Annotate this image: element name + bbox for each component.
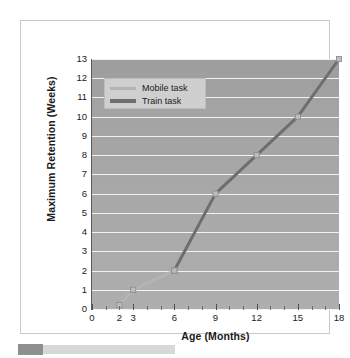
legend-label-train-task: Train task <box>142 96 181 106</box>
x-axis-tick-label: 12 <box>242 312 272 323</box>
chart-legend: Mobile task Train task <box>104 78 206 109</box>
x-axis-tick-label: 9 <box>201 312 231 323</box>
legend-item-mobile-task: Mobile task <box>110 82 200 94</box>
x-axis-major-tick <box>133 304 134 310</box>
x-axis-minor-tick <box>161 306 162 310</box>
y-axis-tick-labels: 012345678910111213 <box>61 21 87 358</box>
x-axis-major-tick <box>216 304 217 310</box>
x-axis-major-tick <box>298 304 299 310</box>
y-axis-tick-label: 6 <box>63 189 87 199</box>
data-point-marker <box>213 191 218 196</box>
x-axis-tick-label: 0 <box>77 312 107 323</box>
y-axis-title: Maximum Retention (Weeks) <box>45 39 57 259</box>
x-axis-major-tick <box>174 304 175 310</box>
y-axis-tick-label: 11 <box>63 92 87 102</box>
x-axis-tick-label: 6 <box>159 312 189 323</box>
x-axis-major-tick <box>92 304 93 310</box>
x-axis-minor-tick <box>119 306 120 310</box>
x-axis-minor-tick <box>312 306 313 310</box>
y-axis-tick-label: 3 <box>63 246 87 256</box>
figure-frame: Maximum Retention (Weeks) 01234567891011… <box>20 20 330 334</box>
x-axis-minor-tick <box>325 306 326 310</box>
x-axis-minor-tick <box>188 306 189 310</box>
y-axis-tick-label: 12 <box>63 73 87 83</box>
x-axis-minor-tick <box>202 306 203 310</box>
data-point-marker <box>254 153 259 158</box>
x-axis-minor-tick <box>106 306 107 310</box>
data-point-marker <box>172 268 177 273</box>
data-point-marker <box>295 114 300 119</box>
y-axis-tick-label: 2 <box>63 266 87 276</box>
y-axis-tick-label: 5 <box>63 208 87 218</box>
x-axis-major-tick <box>257 304 258 310</box>
data-point-marker <box>336 56 341 61</box>
legend-swatch-train-task <box>110 99 136 103</box>
y-axis-tick-label: 13 <box>63 54 87 64</box>
x-axis-tick-label: 15 <box>283 312 313 323</box>
data-point-marker <box>131 287 136 292</box>
x-axis-major-tick <box>339 304 340 310</box>
x-axis-minor-tick <box>229 306 230 310</box>
y-axis-tick-label: 9 <box>63 131 87 141</box>
y-axis-tick-label: 10 <box>63 112 87 122</box>
x-axis-minor-tick <box>243 306 244 310</box>
caption-strip <box>18 344 175 355</box>
y-axis-tick-label: 1 <box>63 285 87 295</box>
y-axis-tick-label: 8 <box>63 150 87 160</box>
caption-swatch <box>18 344 43 355</box>
x-axis-minor-tick <box>147 306 148 310</box>
x-axis-minor-tick <box>270 306 271 310</box>
caption-bar <box>43 345 175 354</box>
x-axis-tick-label: 3 <box>118 312 148 323</box>
legend-swatch-mobile-task <box>110 87 136 90</box>
y-axis-tick-label: 7 <box>63 169 87 179</box>
series-line-mobile-task <box>119 271 174 306</box>
legend-label-mobile-task: Mobile task <box>142 83 188 93</box>
y-axis-tick-label: 4 <box>63 227 87 237</box>
legend-item-train-task: Train task <box>110 95 200 107</box>
x-axis-title: Age (Months) <box>92 330 339 342</box>
x-axis-tick-label: 18 <box>324 312 350 323</box>
x-axis-minor-tick <box>284 306 285 310</box>
